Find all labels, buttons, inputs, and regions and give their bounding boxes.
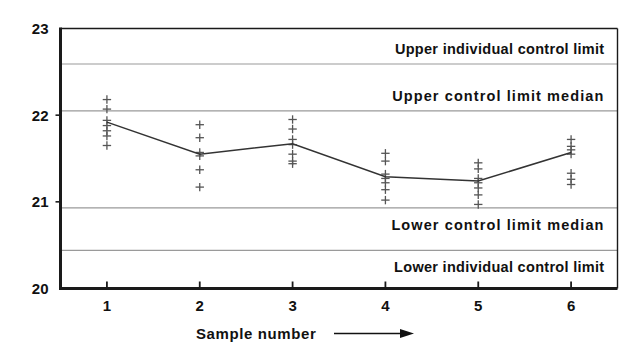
control-chart: Upper individual control limitUpper cont… [0,0,628,348]
x-tick-label-5: 5 [474,297,482,314]
label-lower-control-limit-median: Lower control limit median [391,217,604,233]
x-tick-label-3: 3 [288,297,296,314]
x-tick-label-2: 2 [196,297,204,314]
y-tick-label-21: 21 [32,193,49,210]
y-tick-label-22: 22 [32,107,49,124]
y-tick-label-23: 23 [32,20,49,37]
plot-area [61,29,618,289]
x-axis-title: Sample number [196,325,316,342]
x-tick-label-6: 6 [567,297,575,314]
x-tick-label-1: 1 [103,297,111,314]
control-chart-canvas: Upper individual control limitUpper cont… [0,0,628,348]
sample-number-arrow-head [400,329,414,338]
x-tick-label-4: 4 [381,297,390,314]
label-upper-control-limit-median: Upper control limit median [392,88,604,104]
y-axis: 20212223 [32,20,61,297]
label-upper-individual-control-limit: Upper individual control limit [395,41,605,57]
label-lower-individual-control-limit: Lower individual control limit [394,259,604,275]
x-axis-title-group: Sample number [196,325,414,342]
y-tick-label-20: 20 [32,280,49,297]
